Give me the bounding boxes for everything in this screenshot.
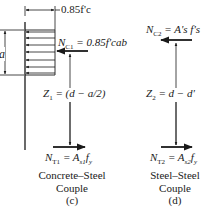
z1-expression: = (d − a/2) [55,87,105,99]
caption-c-line1: Concrete–Steel [22,169,122,182]
stress-label: 0.85f'c [61,4,91,15]
nc2-subscript: C2 [153,30,161,38]
nc1-expression: = 0.85f'cab [76,36,127,48]
depth-label-text: a [0,47,5,61]
z2-subscript: 2 [152,94,156,102]
nt1-y-subscript: y [89,158,92,166]
nt2-expression: = A [168,151,185,163]
nt2-subscript: T2 [157,158,165,166]
z1-subscript: 1 [49,94,53,102]
depth-label: a [0,47,5,61]
compression-force-label-c: NC1 = 0.85f'cab [58,37,127,51]
stress-width-dimension [25,6,60,30]
z2-expression: = d − d' [158,87,194,99]
tension-force-label-d: NT2 = As2fy [150,152,197,166]
lever-arm-label-c: Z1 = (d − a/2) [43,88,105,102]
stress-label-text: 0.85f'c [61,3,91,15]
concrete-steel-couple-diagram: 0.85f'c a NC1 = 0.85f'cab Z1 = (d − a/2)… [0,0,206,207]
caption-c-line2: Couple [22,182,122,195]
nt2-y-subscript: y [194,158,197,166]
nt1-subscript: T1 [52,158,60,166]
caption-d-tag: (d) [140,194,206,207]
caption-c: Concrete–Steel Couple (c) [22,169,122,207]
compression-force-label-d: NC2 = A's f's [146,24,200,38]
caption-c-tag: (c) [22,194,122,207]
stress-arrows [26,32,55,73]
caption-d-line2: Couple [140,182,206,195]
nc2-expression: = A's f's [164,23,200,35]
tension-force-label-c: NT1 = As1fy [45,152,92,166]
nt1-expression: = A [63,151,80,163]
lever-arm-label-d: Z2 = d − d' [146,88,195,102]
caption-d: Steel–Steel Couple (d) [140,169,206,207]
nc1-subscript: C1 [65,43,73,51]
stress-block [25,30,55,75]
caption-d-line1: Steel–Steel [140,169,206,182]
